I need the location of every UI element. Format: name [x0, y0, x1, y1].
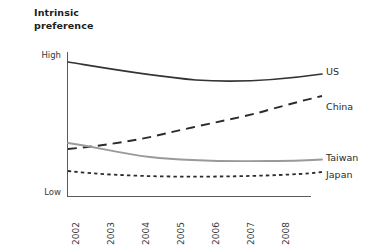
- series-line-us: [68, 62, 322, 81]
- series-line-taiwan: [68, 143, 322, 161]
- chart-container: Intrinsicpreference High Low 2002 2003 2…: [0, 0, 367, 251]
- plot-area: [0, 0, 367, 251]
- series-line-japan: [68, 171, 322, 177]
- series-line-china: [68, 96, 322, 149]
